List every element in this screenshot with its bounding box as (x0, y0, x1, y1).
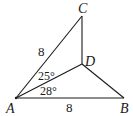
side-label-ac: 8 (38, 44, 45, 59)
angle-label-cad: 25° (38, 69, 55, 83)
segment-db (82, 64, 124, 98)
geometry-figure: C D A B 8 8 25° 28° (0, 0, 133, 116)
point-a-dot (15, 97, 17, 99)
point-label-c: C (78, 1, 88, 16)
point-label-d: D (84, 54, 95, 69)
side-label-ab: 8 (66, 100, 73, 115)
point-label-a: A (5, 101, 15, 116)
angle-label-dab: 28° (40, 84, 57, 98)
point-label-b: B (120, 101, 129, 116)
